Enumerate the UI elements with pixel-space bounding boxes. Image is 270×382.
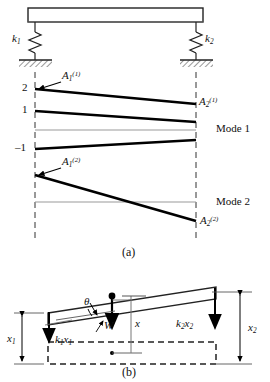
force-label-k1x1: k1x1 — [55, 334, 72, 347]
amplitude-label-A2-mode1: A2(1) — [199, 96, 217, 109]
caption-panel-a: (a) — [122, 246, 135, 258]
mode2-trace-upper — [35, 140, 196, 149]
spring-right-label: k2 — [205, 33, 214, 46]
dimension-label-x1: x1 — [7, 333, 16, 346]
pointer-A1-mode2 — [39, 168, 61, 175]
angle-theta-label: θ — [84, 296, 89, 307]
amplitude-label-A2-mode2: A2(2) — [200, 215, 218, 228]
force-label-k2x2: k2x2 — [176, 318, 193, 331]
amplitude-label-A1-mode1: A1(1) — [62, 70, 80, 83]
legend-mode-1: Mode 1 — [216, 123, 250, 134]
legend-mode-2: Mode 2 — [216, 196, 250, 207]
dimension-x2 — [212, 292, 252, 364]
mode2-trace-lower — [35, 175, 196, 221]
beam-body — [28, 8, 203, 22]
undeformed-reference-box — [48, 342, 216, 364]
ground-support-left — [19, 60, 52, 67]
dimension-x1 — [14, 313, 44, 364]
weight-label-W: W — [104, 320, 113, 331]
dimension-label-x2: x2 — [248, 322, 257, 335]
amplitude-label-A1-mode2: A1(2) — [62, 156, 80, 169]
spring-left-label: k1 — [12, 33, 21, 46]
mode1-trace-lower — [35, 111, 196, 122]
displacement-label-x: x — [135, 318, 140, 329]
spring-right — [190, 22, 202, 60]
mode1-trace-upper — [35, 89, 196, 104]
ground-support-right — [180, 60, 213, 67]
beam-assembly — [28, 8, 203, 22]
tick-label-2: 2 — [22, 82, 28, 93]
caption-panel-b: (b) — [122, 366, 136, 378]
figure-container: k1 k2 2 1 –1 A1(1) A2(1) A1(2) A2(2) Mod… — [0, 0, 270, 382]
tick-label-1: 1 — [22, 104, 28, 115]
spring-left — [29, 22, 41, 60]
tick-label-minus1: –1 — [15, 142, 26, 153]
pointer-A1-mode1 — [39, 82, 61, 89]
